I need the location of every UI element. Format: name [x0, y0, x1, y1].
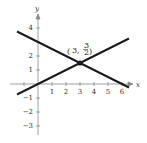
svg-text:(: ( — [67, 47, 70, 56]
y-tick-label: −2 — [23, 108, 33, 116]
x-axis-label: x — [136, 81, 140, 89]
y-tick-label: −3 — [23, 122, 33, 130]
x-tick-label: 3 — [78, 88, 82, 96]
y-axis-arrow-icon — [36, 14, 40, 19]
axes — [10, 14, 133, 135]
y-tick-label: −1 — [23, 94, 33, 102]
y-tick-label: 2 — [29, 52, 33, 60]
intersection-point — [77, 60, 82, 65]
x-tick-label: 6 — [120, 88, 125, 96]
intersection-annotation: ( 3, 3 2 ) — [67, 41, 92, 57]
x-tick-label: 1 — [50, 88, 54, 96]
x-axis-arrow-icon — [128, 82, 133, 86]
x-tick-label: 5 — [106, 88, 110, 96]
chart: x y 1 2 3 4 5 6 4 2 1 −1 −2 −3 ( 3, 3 2 … — [0, 0, 147, 143]
svg-text:3,: 3, — [72, 46, 80, 55]
y-axis-label: y — [34, 5, 40, 13]
y-tick-label: 1 — [29, 66, 33, 74]
y-tick-label: 4 — [29, 24, 34, 32]
x-tick-label: 2 — [64, 88, 68, 96]
svg-text:): ) — [89, 47, 92, 56]
line-decreasing — [17, 32, 129, 88]
x-tick-label: 4 — [92, 88, 97, 96]
